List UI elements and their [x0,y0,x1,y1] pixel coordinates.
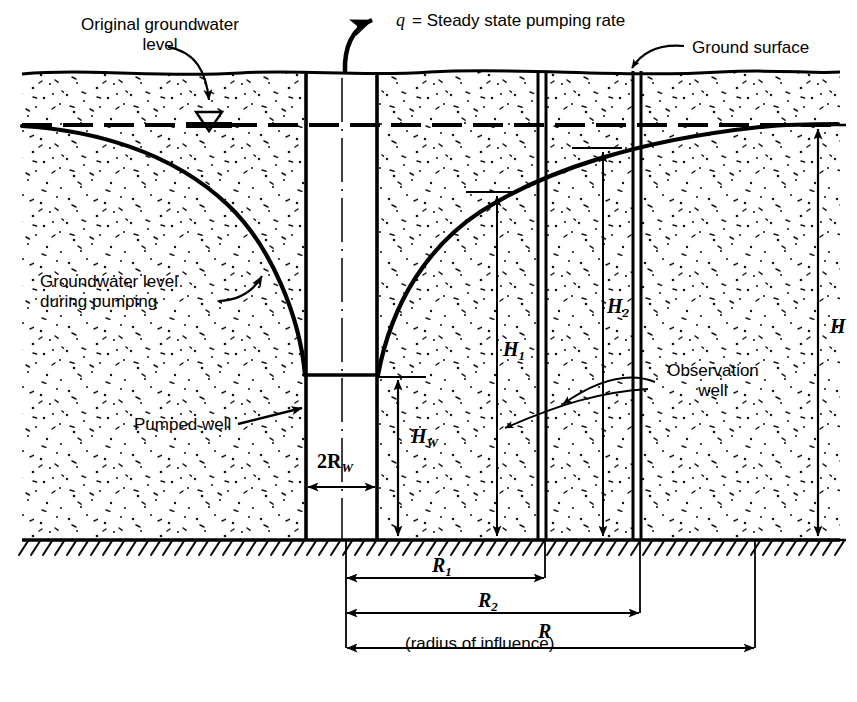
pumping-rate-arrow [345,20,372,72]
dim-h2-base: H [607,295,623,317]
original-groundwater-level-label: Original groundwater level [55,15,265,55]
dim-r2-sub: 2 [491,599,498,614]
dim-label-h: H [830,315,846,338]
impervious-base [19,540,844,555]
pumping-rate-symbol: q [396,10,405,31]
dim-label-h1: H1 [503,338,525,364]
dim-2rw-sub: W [341,460,353,475]
dim-h-base: H [830,315,846,337]
dim-hw-sub: W [427,435,439,450]
dim-label-h2: H2 [607,295,629,321]
dim-h2-sub: 2 [623,305,630,320]
dim-label-r1: R1 [432,554,452,580]
dim-label-2rw: 2RW [317,450,353,476]
pumped-well-label: Pumped well [134,415,231,435]
dim-label-hw: HW [411,425,438,451]
dim-label-r: R [538,620,551,643]
dim-r1-base: R [432,554,445,576]
pumping-rate-label: = Steady state pumping rate [412,11,625,31]
ground-surface-leader [632,46,684,68]
dim-label-r2: R2 [478,589,498,615]
radius-of-influence-label: (radius of influence) [405,634,554,654]
well-cross-section-drawing [0,0,857,702]
groundwater-level-during-pumping-label: Groundwater level during pumping [40,272,178,312]
dim-h1-sub: 1 [519,348,526,363]
dim-r2-base: R [478,589,491,611]
ground-surface-label: Ground surface [692,38,809,58]
dim-r-base: R [538,620,551,642]
dim-2rw-prefix: 2R [317,450,341,472]
dim-hw-base: H [411,425,427,447]
dim-h1-base: H [503,338,519,360]
dim-r1-sub: 1 [445,564,452,579]
observation-well-label: Observation well [648,361,778,401]
figure-canvas: Original groundwater level q = Steady st… [0,0,857,702]
